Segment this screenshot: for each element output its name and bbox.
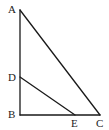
label-e: E [71, 117, 78, 129]
label-d: D [8, 71, 16, 83]
label-c: C [96, 117, 103, 129]
label-b: B [8, 108, 15, 120]
segment-ac [20, 10, 100, 115]
segment-de [20, 77, 75, 115]
geometry-diagram: A D B E C [0, 0, 109, 130]
triangle-figure: A D B E C [0, 0, 109, 130]
label-a: A [8, 3, 16, 15]
